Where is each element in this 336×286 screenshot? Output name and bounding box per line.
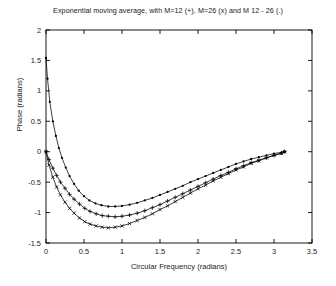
x-tick-label: 0.5 — [69, 247, 99, 256]
x-tick-label: 3.5 — [297, 247, 327, 256]
x-tick-label: 2 — [183, 247, 213, 256]
y-tick-label: -1 — [13, 208, 41, 217]
y-tick-label: 0 — [13, 147, 41, 156]
x-tick-label: 2.5 — [221, 247, 251, 256]
data-series-layer — [44, 57, 287, 230]
axes-frame — [46, 30, 312, 243]
y-tick-label: 2 — [13, 26, 41, 35]
series-dot — [45, 57, 286, 208]
y-tick-label: 0.5 — [13, 117, 41, 126]
axis-ticks — [46, 30, 312, 243]
plot-area — [0, 0, 336, 286]
y-tick-label: 1.5 — [13, 56, 41, 65]
y-tick-label: 1 — [13, 86, 41, 95]
x-tick-label: 1 — [107, 247, 137, 256]
y-tick-label: -0.5 — [13, 178, 41, 187]
figure-canvas: Exponential moving average, with M=12 (+… — [0, 0, 336, 286]
x-tick-label: 3 — [259, 247, 289, 256]
x-tick-label: 0 — [31, 247, 61, 256]
x-tick-label: 1.5 — [145, 247, 175, 256]
series-plus — [44, 150, 287, 219]
series-x — [44, 150, 286, 229]
